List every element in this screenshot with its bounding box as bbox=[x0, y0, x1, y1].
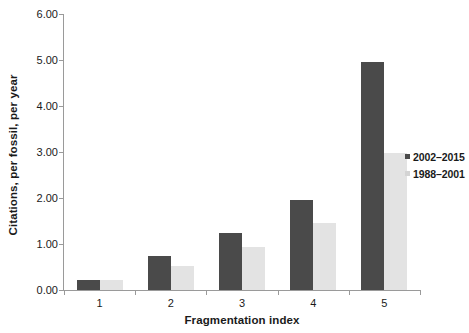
bar bbox=[100, 280, 123, 290]
legend-label: 1988–2001 bbox=[413, 168, 465, 180]
x-axis-tick-mark bbox=[420, 291, 421, 295]
y-axis-tick-labels: 0.001.002.003.004.005.006.00 bbox=[22, 0, 58, 333]
bar bbox=[384, 153, 407, 290]
x-axis-tick-label: 2 bbox=[151, 297, 191, 310]
bar bbox=[242, 247, 265, 290]
y-axis-tick-label: 3.00 bbox=[24, 147, 58, 158]
bar bbox=[313, 223, 336, 290]
bar-group bbox=[64, 14, 135, 290]
bar-group bbox=[135, 14, 206, 290]
bar bbox=[290, 200, 313, 290]
bar-chart: Citations, per fossil, per year 0.001.00… bbox=[0, 0, 469, 333]
bar-group bbox=[278, 14, 349, 290]
y-axis-tick-label: 0.00 bbox=[24, 285, 58, 296]
bar bbox=[148, 256, 171, 290]
square-marker-dark-icon bbox=[405, 154, 410, 159]
bar bbox=[361, 62, 384, 290]
x-axis-tick-mark bbox=[349, 291, 350, 295]
x-axis-tick-mark bbox=[206, 291, 207, 295]
y-axis-tick-label: 6.00 bbox=[24, 9, 58, 20]
y-axis-tick-label: 5.00 bbox=[24, 55, 58, 66]
y-axis-tick-label: 2.00 bbox=[24, 193, 58, 204]
x-axis-tick-label: 1 bbox=[80, 297, 120, 310]
x-axis-line bbox=[63, 290, 421, 291]
square-marker-light-icon bbox=[405, 171, 410, 176]
bar bbox=[77, 280, 100, 290]
y-axis-title: Citations, per fossil, per year bbox=[4, 10, 22, 300]
x-axis-tick-label: 3 bbox=[222, 297, 262, 310]
x-axis-tick-mark bbox=[278, 291, 279, 295]
legend-label: 2002–2015 bbox=[413, 151, 465, 163]
x-axis-tick-mark bbox=[135, 291, 136, 295]
bar bbox=[171, 266, 194, 290]
bar-group bbox=[206, 14, 277, 290]
chart-legend: 2002–20151988–2001 bbox=[405, 149, 465, 183]
y-axis-tick-label: 4.00 bbox=[24, 101, 58, 112]
legend-item: 1988–2001 bbox=[405, 166, 465, 181]
x-axis-title: Fragmentation index bbox=[64, 314, 420, 326]
x-axis-tick-mark bbox=[64, 291, 65, 295]
bar bbox=[219, 233, 242, 290]
y-axis-tick-label: 1.00 bbox=[24, 239, 58, 250]
x-axis-tick-label: 5 bbox=[364, 297, 404, 310]
plot-area bbox=[64, 14, 420, 290]
legend-item: 2002–2015 bbox=[405, 149, 465, 164]
x-axis-tick-label: 4 bbox=[293, 297, 333, 310]
